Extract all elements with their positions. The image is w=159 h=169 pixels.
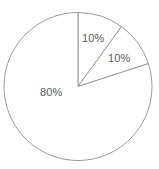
pie-slice-label-1: 10%: [82, 32, 104, 44]
pie-slice-group: [4, 13, 152, 161]
pie-chart: 10% 10% 80%: [0, 0, 159, 169]
pie-chart-canvas: [0, 0, 159, 169]
pie-slice-label-2: 10%: [108, 52, 130, 64]
pie-slice-label-3: 80%: [40, 86, 62, 98]
